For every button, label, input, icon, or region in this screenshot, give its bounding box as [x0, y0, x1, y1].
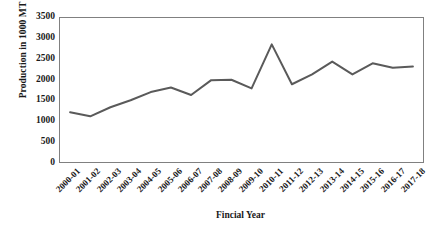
- y-axis-tick-label: 1000: [24, 117, 55, 127]
- data-line-svg: [60, 18, 423, 162]
- y-axis-tick-label: 1500: [24, 96, 55, 106]
- y-axis-tick-label: 3000: [24, 33, 55, 43]
- production-line-chart: Production in 1000 MT 050010001500200025…: [0, 0, 439, 236]
- x-axis-tick-labels: 2000-012001-022002-032003-042004-052005-…: [59, 164, 424, 214]
- plot-area: [59, 17, 424, 163]
- y-axis-tick-label: 2500: [24, 54, 55, 64]
- x-axis-title: Fincial Year: [0, 210, 439, 220]
- y-axis-tick-label: 500: [24, 137, 55, 147]
- production-series-line: [70, 44, 413, 116]
- y-axis-tick-label: 0: [24, 158, 55, 168]
- y-axis-tick-label: 3500: [24, 12, 55, 22]
- y-axis-tick-label: 2000: [24, 75, 55, 85]
- y-axis-tick-labels: 0500100015002000250030003500: [24, 17, 55, 163]
